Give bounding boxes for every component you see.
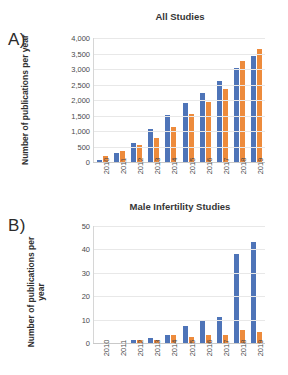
panel-b-letter: B) (8, 216, 26, 236)
panel-a-plot-area: 05001,0001,5002,0002,5003,0003,5004,000 (93, 38, 265, 163)
y-axis-tick-label: 50 (82, 222, 90, 231)
bar-group-2016 (197, 226, 214, 343)
panel-a: A) All Studies Number of publications pe… (0, 0, 288, 190)
panel-a-y-axis-label: Number of publications per year (20, 35, 30, 165)
x-axis-tick-2011: 2011 (110, 346, 127, 375)
figure-root: A) All Studies Number of publications pe… (0, 0, 288, 375)
bar-series2-2015 (189, 114, 194, 162)
bar-series1-2017 (217, 81, 222, 162)
x-axis-tick-2019: 2019 (248, 346, 265, 375)
y-axis-tick-label: 0 (86, 158, 90, 167)
x-axis-tick-2015: 2015 (179, 346, 196, 375)
x-axis-tick-2016: 2016 (196, 346, 213, 375)
panel-b-bar-group (94, 226, 265, 343)
gridline (94, 249, 265, 250)
bar-series1-2016 (200, 321, 205, 343)
y-axis-tick-label: 4,000 (71, 34, 90, 43)
gridline (94, 85, 265, 86)
x-axis-tick-2013: 2013 (145, 346, 162, 375)
x-axis-tick-2014: 2014 (162, 346, 179, 375)
panel-b-y-axis-label: Number of publications per year (26, 232, 46, 352)
bar-series2-2019 (257, 49, 262, 162)
bar-group-2013 (145, 226, 162, 343)
x-axis-tick-label: 2019 (256, 158, 265, 175)
gridline (94, 54, 265, 55)
panel-b-title: Male Infertility Studies (90, 201, 270, 212)
y-axis-tick-label: 500 (77, 142, 90, 151)
gridline (94, 296, 265, 297)
x-axis-tick-2017: 2017 (213, 346, 230, 375)
y-axis-tick-label: 1,000 (71, 127, 90, 136)
bar-series1-2018 (234, 254, 239, 343)
bar-series1-2019 (251, 242, 256, 343)
panel-b-y-axis-label-line1: Number of publications per (26, 237, 36, 348)
y-axis-tick-label: 2,500 (71, 80, 90, 89)
bar-group-2010 (94, 226, 111, 343)
gridline (94, 273, 265, 274)
gridline (94, 147, 265, 148)
panel-b-y-axis-label-line2: year (36, 283, 46, 301)
bar-group-2015 (179, 226, 196, 343)
bar-group-2012 (128, 226, 145, 343)
y-axis-tick-label: 40 (82, 245, 90, 254)
y-axis-tick-label: 20 (82, 292, 90, 301)
x-axis-tick-2012: 2012 (127, 346, 144, 375)
gridline (94, 131, 265, 132)
y-axis-tick-label: 1,500 (71, 111, 90, 120)
gridline (94, 320, 265, 321)
gridline (94, 226, 265, 227)
x-axis-tick-2010: 2010 (93, 346, 110, 375)
panel-a-title: All Studies (90, 11, 270, 22)
bar-series1-2014 (165, 115, 170, 162)
bar-series1-2015 (183, 326, 188, 343)
bar-group-2011 (111, 226, 128, 343)
bar-group-2018 (231, 226, 248, 343)
gridline (94, 116, 265, 117)
gridline (94, 38, 265, 39)
x-axis-tick-label: 2019 (256, 340, 265, 357)
y-axis-tick-label: 3,500 (71, 49, 90, 58)
x-axis-tick-2018: 2018 (231, 346, 248, 375)
y-axis-tick-label: 30 (82, 268, 90, 277)
gridline (94, 100, 265, 101)
bar-group-2017 (214, 226, 231, 343)
bar-group-2019 (248, 226, 265, 343)
panel-b-plot-area: 01020304050 (93, 226, 265, 344)
y-axis-tick-label: 2,000 (71, 96, 90, 105)
gridline (94, 69, 265, 70)
y-axis-tick-label: 0 (86, 339, 90, 348)
bar-series1-2015 (183, 103, 188, 162)
bar-series1-2016 (200, 93, 205, 162)
panel-b-x-axis-labels: 2010201120122013201420152016201720182019 (93, 346, 265, 375)
y-axis-tick-label: 10 (82, 315, 90, 324)
bar-group-2014 (162, 226, 179, 343)
panel-b: B) Male Infertility Studies Number of pu… (0, 190, 288, 375)
y-axis-tick-label: 3,000 (71, 65, 90, 74)
